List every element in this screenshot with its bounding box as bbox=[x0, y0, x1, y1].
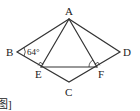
label-e: E bbox=[35, 68, 42, 80]
angle-arc-f bbox=[89, 60, 93, 67]
label-b: B bbox=[6, 46, 13, 58]
label-f: F bbox=[98, 68, 104, 80]
angle-b-value: 64° bbox=[27, 47, 40, 57]
angle-arc-b bbox=[24, 48, 25, 56]
label-a: A bbox=[65, 5, 73, 17]
caption-fragment: 图] bbox=[0, 98, 12, 110]
label-d: D bbox=[123, 46, 131, 58]
label-c: C bbox=[65, 86, 72, 98]
rhombus-diagram: A B C D E F 64° 图] bbox=[0, 0, 140, 111]
segment-ae bbox=[41, 19, 69, 67]
